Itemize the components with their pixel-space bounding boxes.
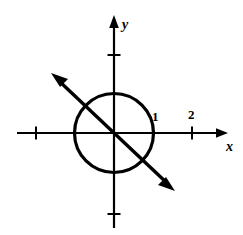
coordinate-plot-svg	[0, 0, 243, 235]
y-axis-arrowhead	[109, 15, 119, 28]
x-tick-label-1: 1	[152, 110, 159, 123]
x-axis-arrowhead	[216, 128, 228, 138]
x-axis-label: x	[226, 140, 233, 154]
x-tick-label-2: 2	[188, 108, 195, 121]
y-axis-label: y	[122, 18, 128, 32]
math-figure-unit-circle-with-line: x y 1 2	[0, 0, 243, 235]
